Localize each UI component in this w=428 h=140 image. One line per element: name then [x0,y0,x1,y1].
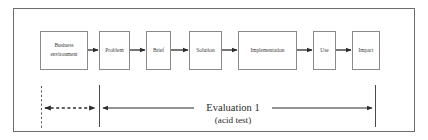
node-label-line1: Implementation [250,47,284,53]
diagram-canvas: Business environment Problem Brief Solut… [0,0,428,140]
node-label-line1: Use [320,47,329,53]
evaluation-label-line2: (acid test) [215,115,251,125]
process-node-impact[interactable]: Impact [353,32,380,70]
node-label-line2: environment [50,51,78,57]
node-label-line1: Brief [153,47,164,53]
process-flow-diagram: Business environment Problem Brief Solut… [0,0,428,140]
process-node-solution[interactable]: Solution [190,32,222,70]
process-node-business-environment[interactable]: Business environment [41,32,88,70]
process-node-problem[interactable]: Problem [100,32,130,70]
process-node-brief[interactable]: Brief [147,32,171,70]
process-node-use[interactable]: Use [314,32,336,70]
node-label-line1: Impact [359,47,374,53]
node-label-line1: Business [54,42,73,48]
node-label-line1: Solution [196,47,215,53]
node-label-line1: Problem [105,47,124,53]
evaluation-label-line1: Evaluation 1 [206,102,259,113]
process-node-implementation[interactable]: Implementation [239,32,297,70]
